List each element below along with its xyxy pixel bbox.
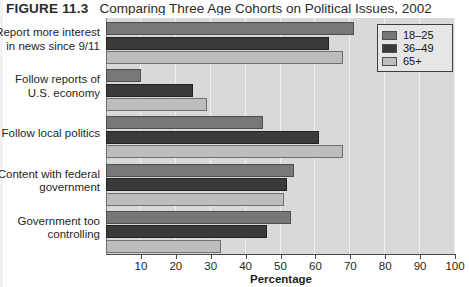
x-axis-tick xyxy=(350,254,351,259)
category-label: Government toocontrolling xyxy=(0,215,100,242)
bar xyxy=(106,37,329,50)
category-label-line: Follow reports of xyxy=(0,73,100,87)
category-label: Follow local politics xyxy=(0,127,100,141)
x-axis-tick-label: 90 xyxy=(405,260,435,272)
legend-label: 18–25 xyxy=(403,29,434,41)
x-axis-tick xyxy=(420,254,421,259)
x-axis-tick-label: 10 xyxy=(126,260,156,272)
x-axis-tick xyxy=(385,254,386,259)
category-label-line: government xyxy=(0,181,100,195)
figure-caption: FIGURE 11.3Comparing Three Age Cohorts o… xyxy=(6,0,458,15)
bar xyxy=(106,164,294,177)
x-axis-tick-label: 30 xyxy=(196,260,226,272)
x-axis-tick-label: 60 xyxy=(300,260,330,272)
x-axis-tick-label: 80 xyxy=(370,260,400,272)
x-axis-tick xyxy=(141,254,142,259)
x-axis-tick xyxy=(211,254,212,259)
bar xyxy=(106,178,287,191)
legend-label: 65+ xyxy=(403,55,422,67)
x-axis-tick xyxy=(246,254,247,259)
category-label-line: Government too xyxy=(0,215,100,229)
legend-swatch-icon xyxy=(382,44,397,53)
x-axis-tick xyxy=(281,254,282,259)
figure-number: FIGURE 11.3 xyxy=(6,1,88,15)
gridline xyxy=(454,18,455,254)
category-label-line: U.S. economy xyxy=(0,87,100,101)
x-axis-title: Percentage xyxy=(106,273,456,285)
x-axis-tick-label: 70 xyxy=(335,260,365,272)
x-axis-tick xyxy=(455,254,456,259)
legend-item[interactable]: 36–49 xyxy=(382,42,448,54)
category-label-line: controlling xyxy=(0,228,100,242)
bar xyxy=(106,240,221,253)
bar xyxy=(106,98,207,111)
x-axis-tick xyxy=(176,254,177,259)
bar xyxy=(106,193,284,206)
x-axis-tick-label: 100 xyxy=(440,260,469,272)
legend-swatch-icon xyxy=(382,57,397,66)
bar xyxy=(106,116,263,129)
category-label: Content with federalgovernment xyxy=(0,168,100,195)
bar xyxy=(106,22,354,35)
bar xyxy=(106,131,319,144)
legend-swatch-icon xyxy=(382,31,397,40)
bar xyxy=(106,51,343,64)
legend-item[interactable]: 65+ xyxy=(382,55,448,67)
bar xyxy=(106,225,267,238)
gridline xyxy=(349,18,350,254)
category-label-line: Report more interest xyxy=(0,26,100,40)
category-label: Follow reports ofU.S. economy xyxy=(0,73,100,100)
x-axis-tick-label: 50 xyxy=(266,260,296,272)
legend: 18–25 36–49 65+ xyxy=(377,24,453,72)
category-label-line: in news since 9/11 xyxy=(0,40,100,54)
category-label-line: Follow local politics xyxy=(0,127,100,141)
bar xyxy=(106,69,141,82)
x-axis-tick-label: 20 xyxy=(161,260,191,272)
x-axis-tick xyxy=(315,254,316,259)
legend-label: 36–49 xyxy=(403,42,434,54)
bar xyxy=(106,84,193,97)
category-label-line: Content with federal xyxy=(0,168,100,182)
category-label: Report more interestin news since 9/11 xyxy=(0,26,100,53)
bar xyxy=(106,145,343,158)
x-axis-tick-label: 40 xyxy=(231,260,261,272)
legend-item[interactable]: 18–25 xyxy=(382,29,448,41)
bar xyxy=(106,211,291,224)
figure-title: Comparing Three Age Cohorts on Political… xyxy=(99,1,431,15)
